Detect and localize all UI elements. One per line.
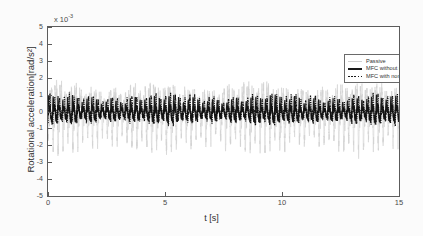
y-tick-label: -5 xyxy=(21,192,43,199)
legend-key-passive-icon xyxy=(347,58,363,65)
legend-item-mfc-linear: MFC without nonlinearities xyxy=(347,65,400,72)
y-tick-mark xyxy=(48,78,52,79)
x-tick-mark xyxy=(165,192,166,196)
y-tick-label: 2 xyxy=(21,74,43,81)
legend: Passive MFC without nonlinearities MFC w… xyxy=(344,54,400,83)
figure-canvas: x 10-3 Rotational acceleration[rad/s²] P… xyxy=(0,0,423,236)
y-tick-mark xyxy=(48,162,52,163)
y-tick-label: -2 xyxy=(21,141,43,148)
y-tick-mark xyxy=(48,112,52,113)
y-tick-mark xyxy=(48,44,52,45)
legend-label-mfc-nonlinear: MFC with nonlinearities xyxy=(366,73,400,80)
y-tick-mark xyxy=(48,145,52,146)
x-tick-label: 5 xyxy=(155,199,175,207)
y-tick-mark xyxy=(48,128,52,129)
y-tick-mark xyxy=(48,27,52,28)
legend-item-mfc-nonlinear: MFC with nonlinearities xyxy=(347,73,400,80)
signal-traces xyxy=(48,27,399,196)
y-tick-label: 3 xyxy=(21,57,43,64)
y-axis-exponent-base: x 10 xyxy=(54,15,68,24)
x-tick-label: 10 xyxy=(272,199,292,207)
y-tick-label: -3 xyxy=(21,158,43,165)
y-tick-mark xyxy=(48,61,52,62)
x-tick-label: 15 xyxy=(389,199,409,207)
y-tick-label: -4 xyxy=(21,175,43,182)
y-tick-mark xyxy=(48,95,52,96)
plot-area: Passive MFC without nonlinearities MFC w… xyxy=(47,26,400,197)
y-tick-label: 5 xyxy=(21,23,43,30)
y-tick-label: -1 xyxy=(21,124,43,131)
y-axis-exponent: x 10-3 xyxy=(54,12,73,24)
y-tick-mark xyxy=(48,179,52,180)
legend-item-passive: Passive xyxy=(347,58,400,65)
y-tick-label: 0 xyxy=(21,108,43,115)
y-tick-label: 1 xyxy=(21,91,43,98)
x-axis-label: t [s] xyxy=(0,213,423,223)
y-axis-exponent-power: -3 xyxy=(68,13,73,19)
y-tick-mark xyxy=(48,196,52,197)
x-tick-mark xyxy=(282,192,283,196)
legend-key-dotted-icon xyxy=(347,73,363,80)
y-tick-label: 4 xyxy=(21,40,43,47)
x-tick-label: 0 xyxy=(38,199,58,207)
legend-label-passive: Passive xyxy=(366,58,386,65)
legend-label-mfc-linear: MFC without nonlinearities xyxy=(366,65,400,72)
x-tick-mark xyxy=(399,192,400,196)
legend-key-solid-icon xyxy=(347,65,363,72)
x-tick-mark xyxy=(48,192,49,196)
